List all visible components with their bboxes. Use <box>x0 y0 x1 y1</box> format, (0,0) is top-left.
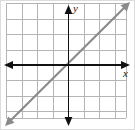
coordinate-plane-figure: y x <box>0 0 135 130</box>
x-axis-label: x <box>123 68 128 79</box>
y-axis-label: y <box>73 3 78 14</box>
graph-canvas <box>0 0 135 130</box>
